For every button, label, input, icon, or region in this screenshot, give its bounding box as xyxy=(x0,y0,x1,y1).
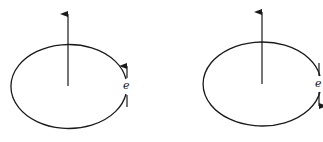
right-panel: e xyxy=(203,12,322,126)
diagram-canvas: e e xyxy=(0,0,323,142)
left-electron-label: e xyxy=(123,79,130,92)
left-panel: e xyxy=(11,14,130,129)
right-electron-label: e xyxy=(315,77,322,90)
